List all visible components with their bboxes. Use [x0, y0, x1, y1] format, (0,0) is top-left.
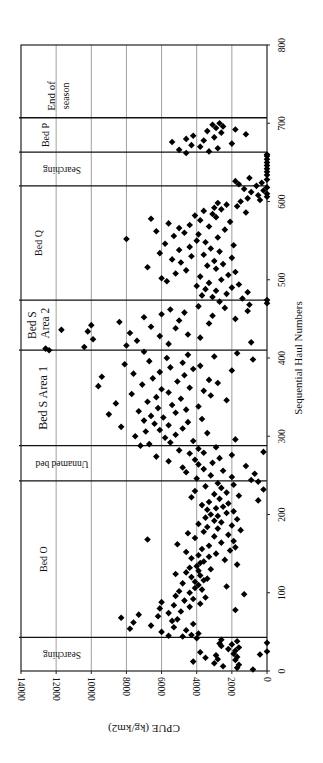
data-point	[216, 455, 223, 462]
data-point	[213, 505, 220, 512]
y-tick-label: 2000	[226, 677, 236, 696]
data-point	[192, 212, 199, 219]
data-point	[251, 471, 258, 478]
data-point	[218, 539, 225, 546]
data-point	[232, 544, 239, 551]
data-point	[190, 366, 197, 373]
region-label-line: Area 2	[39, 307, 51, 338]
data-point	[190, 132, 197, 139]
data-point	[195, 552, 202, 559]
data-point	[171, 624, 178, 631]
data-point	[181, 230, 188, 237]
data-point	[213, 287, 220, 294]
data-point	[220, 261, 227, 268]
data-point	[204, 128, 211, 135]
data-point	[188, 142, 195, 149]
data-point	[144, 264, 151, 271]
data-point	[255, 497, 262, 504]
data-point	[204, 507, 211, 514]
data-point	[243, 463, 250, 470]
data-point	[171, 233, 178, 240]
data-point	[148, 323, 155, 330]
data-point	[127, 330, 134, 337]
data-point	[192, 456, 199, 463]
data-point	[202, 239, 209, 246]
data-point	[172, 409, 179, 416]
data-point	[248, 189, 255, 196]
data-point	[211, 204, 218, 211]
data-point	[81, 344, 88, 351]
data-point	[199, 416, 206, 423]
data-point	[183, 267, 190, 274]
data-point	[199, 586, 206, 593]
y-tick-label: 14000	[16, 677, 26, 701]
data-point	[157, 250, 164, 257]
plot-border	[21, 45, 267, 671]
data-point	[202, 654, 209, 661]
data-point	[190, 596, 197, 603]
data-point	[204, 430, 211, 437]
data-point	[218, 206, 225, 213]
data-point	[155, 613, 162, 620]
data-point	[195, 445, 202, 452]
y-tick-label: 10000	[86, 677, 96, 701]
data-point	[179, 633, 186, 640]
data-point	[213, 550, 220, 557]
data-point	[193, 237, 200, 244]
data-point	[139, 381, 146, 388]
data-point	[264, 648, 271, 655]
data-point	[183, 549, 190, 556]
data-point	[181, 597, 188, 604]
plot-frame	[21, 45, 267, 671]
data-point	[183, 569, 190, 576]
data-point	[192, 535, 199, 542]
data-point	[90, 336, 97, 343]
data-point	[193, 283, 200, 290]
data-point	[215, 525, 222, 532]
data-point	[200, 388, 207, 395]
data-point	[197, 363, 204, 370]
data-point	[158, 311, 165, 318]
data-point	[116, 319, 123, 326]
data-point	[135, 611, 142, 618]
data-point	[206, 280, 213, 287]
data-point	[106, 411, 113, 418]
data-point	[165, 458, 172, 465]
data-point	[183, 469, 190, 476]
data-point	[167, 364, 174, 371]
data-point	[206, 377, 213, 384]
data-point	[134, 337, 141, 344]
data-point	[258, 179, 265, 186]
data-point	[148, 622, 155, 629]
data-point	[176, 447, 183, 454]
data-point	[128, 391, 135, 398]
data-point	[199, 502, 206, 509]
data-point	[165, 632, 172, 639]
data-point	[141, 314, 148, 321]
region-label-searching: Searching	[43, 165, 81, 175]
data-point	[186, 244, 193, 251]
data-point	[220, 663, 227, 670]
data-point	[232, 316, 239, 323]
data-point	[178, 259, 185, 266]
data-point	[200, 251, 207, 258]
data-point	[248, 477, 255, 484]
data-point	[218, 485, 225, 492]
data-point	[260, 449, 267, 456]
data-point	[148, 413, 155, 420]
data-point	[127, 625, 134, 632]
data-point	[160, 414, 167, 421]
data-point	[223, 397, 230, 404]
data-point	[195, 461, 202, 468]
data-point	[206, 553, 213, 560]
data-point	[199, 546, 206, 553]
x-tick-label: 700	[277, 116, 287, 131]
data-point	[220, 503, 227, 510]
data-point	[174, 541, 181, 548]
data-point	[197, 143, 204, 150]
region-label-line: season	[60, 83, 71, 110]
data-point	[243, 209, 250, 216]
data-point	[113, 400, 120, 407]
data-point	[118, 424, 125, 431]
data-point	[197, 273, 204, 280]
